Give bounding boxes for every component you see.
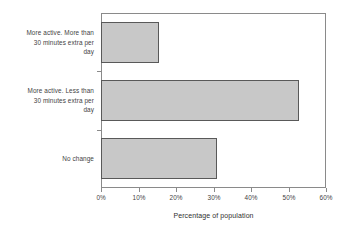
category-label-line: More active. Less than <box>2 86 94 96</box>
x-axis-tick-label: 30% <box>199 194 229 202</box>
category-label-line: 30 minutes extra per <box>2 96 94 106</box>
x-axis-tick-label: 20% <box>161 194 191 202</box>
category-label-more-active-less-than-30: More active. Less than30 minutes extra p… <box>2 86 94 115</box>
x-axis-tick-label: 0% <box>86 194 116 202</box>
bar-no-change[interactable] <box>101 138 217 179</box>
x-axis-tick <box>176 188 177 192</box>
x-axis-tick-label: 10% <box>124 194 154 202</box>
bar-chart-figure: More active. More than30 minutes extra p… <box>0 0 347 233</box>
category-tick <box>97 71 101 72</box>
x-axis-tick-label: 50% <box>274 194 304 202</box>
x-axis-tick <box>214 188 215 192</box>
category-label-line: day <box>2 105 94 115</box>
bar-row <box>101 80 299 121</box>
x-axis-tick <box>251 188 252 192</box>
category-tick <box>97 130 101 131</box>
x-axis-title: Percentage of population <box>101 211 326 220</box>
category-label-no-change: No change <box>2 154 94 164</box>
bar-more-active-more-than-30[interactable] <box>101 22 159 63</box>
category-label-line: No change <box>2 154 94 164</box>
x-axis-tick-label: 60% <box>311 194 341 202</box>
category-label-line: 30 minutes extra per <box>2 38 94 48</box>
x-axis-tick <box>326 188 327 192</box>
x-axis-tick <box>101 188 102 192</box>
category-label-line: day <box>2 47 94 57</box>
x-axis-tick-label: 40% <box>236 194 266 202</box>
bar-row <box>101 22 159 63</box>
x-axis-tick <box>289 188 290 192</box>
x-axis-tick <box>139 188 140 192</box>
bar-more-active-less-than-30[interactable] <box>101 80 299 121</box>
category-label-more-active-more-than-30: More active. More than30 minutes extra p… <box>2 28 94 57</box>
category-label-line: More active. More than <box>2 28 94 38</box>
bar-row <box>101 138 217 179</box>
